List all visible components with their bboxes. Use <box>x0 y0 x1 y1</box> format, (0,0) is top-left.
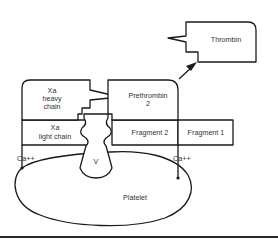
arrow-head-icon <box>186 62 197 71</box>
prothrombinase-diagram: Platelet Ca++ Ca++ Xa light chain Fragme… <box>0 0 278 240</box>
fragment-1: Fragment 1 <box>178 120 233 145</box>
bottom-rule <box>0 236 278 238</box>
thrombin: Thrombin <box>168 22 256 62</box>
svg-text:Fragment 2: Fragment 2 <box>132 128 169 137</box>
svg-text:chain: chain <box>43 102 60 111</box>
xa-light-chain: Xa light chain <box>22 120 90 145</box>
fragment-2: Fragment 2 <box>112 120 178 145</box>
svg-text:V: V <box>94 157 99 166</box>
calcium-right-label: Ca++ <box>173 154 191 163</box>
svg-text:Xa: Xa <box>51 123 60 132</box>
svg-text:2: 2 <box>146 99 150 108</box>
activation-arrow <box>179 62 197 79</box>
svg-text:Fragment 1: Fragment 1 <box>188 128 225 137</box>
platelet-label: Platelet <box>123 193 147 202</box>
calcium-left-label: Ca++ <box>17 154 35 163</box>
svg-text:Thrombin: Thrombin <box>211 35 241 44</box>
prethrombin-2: Prethrombin 2 <box>108 80 178 120</box>
svg-text:light chain: light chain <box>39 132 71 141</box>
factor-v: V <box>80 114 112 178</box>
